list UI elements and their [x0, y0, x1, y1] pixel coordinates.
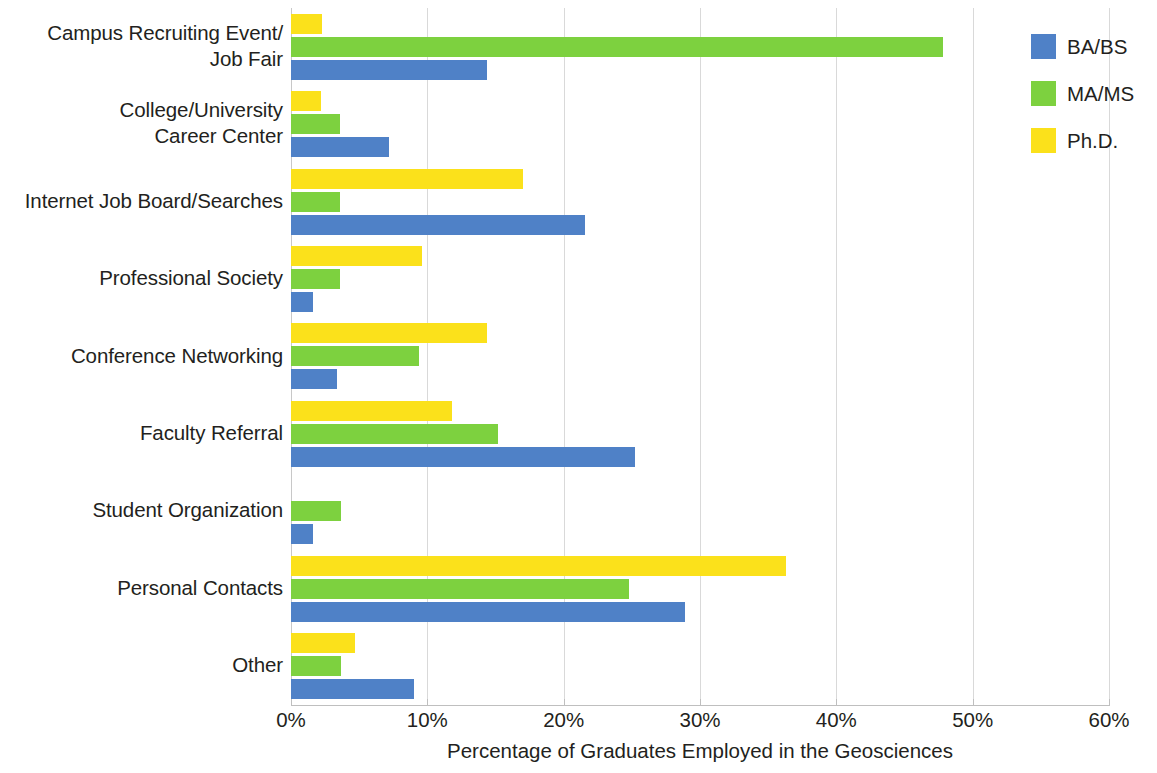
x-tick-label: 10% [407, 706, 448, 734]
bar-slot [291, 345, 1109, 368]
bar-slot [291, 90, 1109, 113]
x-tick-label: 30% [679, 706, 720, 734]
x-tick-label: 50% [952, 706, 993, 734]
bar-slot [291, 136, 1109, 159]
x-axis-ticks: 0%10%20%30%40%50%60% [291, 706, 1109, 736]
category-label: Other [0, 652, 283, 678]
category-label: College/UniversityCareer Center [0, 97, 283, 149]
bar-mams [291, 656, 341, 676]
x-tick-mark [700, 699, 701, 706]
bar-phd [291, 246, 422, 266]
legend-label: Ph.D. [1067, 130, 1118, 152]
bar-slot [291, 445, 1109, 468]
legend: BA/BSMA/MSPh.D. [1031, 23, 1157, 164]
category-label-line: Faculty Referral [0, 420, 283, 446]
legend-swatch [1031, 34, 1056, 59]
category-label-line: Student Organization [0, 497, 283, 523]
category-label: Campus Recruiting Event/Job Fair [0, 20, 283, 72]
bar-slot [291, 322, 1109, 345]
bar-slot [291, 632, 1109, 655]
category-label-line: Campus Recruiting Event/ [0, 20, 283, 46]
bar-slot [291, 577, 1109, 600]
bar-slot [291, 167, 1109, 190]
bar-group [291, 85, 1109, 162]
bar-slot [291, 368, 1109, 391]
x-tick-label: 0% [276, 706, 306, 734]
category-label: Faculty Referral [0, 420, 283, 446]
bar-mams [291, 37, 943, 57]
category-label-line: Conference Networking [0, 343, 283, 369]
category-label-line: Personal Contacts [0, 575, 283, 601]
bar-slot [291, 477, 1109, 500]
category-label: Personal Contacts [0, 575, 283, 601]
bar-phd [291, 556, 786, 576]
bar-group [291, 8, 1109, 85]
bar-group [291, 395, 1109, 472]
legend-label: BA/BS [1067, 36, 1127, 58]
legend-item: BA/BS [1031, 23, 1157, 70]
bar-group [291, 163, 1109, 240]
legend-label: MA/MS [1067, 83, 1134, 105]
x-tick-mark [291, 699, 292, 706]
bar-group [291, 318, 1109, 395]
category-label: Conference Networking [0, 343, 283, 369]
bar-slot [291, 190, 1109, 213]
bar-slot [291, 678, 1109, 701]
bar-slot [291, 213, 1109, 236]
bar-babs [291, 524, 313, 544]
bar-group [291, 240, 1109, 317]
bar-slot [291, 113, 1109, 136]
bar-mams [291, 424, 498, 444]
legend-item: MA/MS [1031, 70, 1157, 117]
bar-slot [291, 500, 1109, 523]
bar-mams [291, 346, 419, 366]
legend-swatch [1031, 128, 1056, 153]
bar-slot [291, 58, 1109, 81]
bar-mams [291, 269, 340, 289]
bar-phd [291, 91, 321, 111]
category-label: Professional Society [0, 265, 283, 291]
bar-babs [291, 137, 389, 157]
bar-chart: Campus Recruiting Event/Job FairCollege/… [0, 0, 1157, 773]
bar-babs [291, 60, 487, 80]
legend-item: Ph.D. [1031, 117, 1157, 164]
bar-babs [291, 447, 635, 467]
legend-swatch [1031, 81, 1056, 106]
bar-slot [291, 268, 1109, 291]
bar-group [291, 628, 1109, 705]
bar-slot [291, 12, 1109, 35]
x-tick-mark [1109, 699, 1110, 706]
category-label-line: Other [0, 652, 283, 678]
bar-babs [291, 679, 414, 699]
bar-babs [291, 369, 337, 389]
category-label: Student Organization [0, 497, 283, 523]
bar-slot [291, 523, 1109, 546]
x-tick-mark [836, 699, 837, 706]
bar-mams [291, 114, 340, 134]
bar-mams [291, 192, 340, 212]
x-axis-title: Percentage of Graduates Employed in the … [291, 739, 1109, 763]
bar-mams [291, 579, 629, 599]
bar-slot [291, 422, 1109, 445]
category-label-line: Internet Job Board/Searches [0, 188, 283, 214]
category-label-line: College/University [0, 97, 283, 123]
bar-phd [291, 169, 523, 189]
bar-group [291, 550, 1109, 627]
bar-babs [291, 292, 313, 312]
bar-slot [291, 399, 1109, 422]
bar-slot [291, 655, 1109, 678]
bar-babs [291, 602, 685, 622]
bar-slot [291, 600, 1109, 623]
bar-slot [291, 554, 1109, 577]
x-tick-label: 20% [543, 706, 584, 734]
x-tick-label: 40% [816, 706, 857, 734]
bar-phd [291, 633, 355, 653]
bar-phd [291, 14, 322, 34]
bar-rows [291, 8, 1109, 705]
bar-babs [291, 215, 585, 235]
category-label-line: Professional Society [0, 265, 283, 291]
bar-group [291, 473, 1109, 550]
x-tick-mark [973, 699, 974, 706]
bar-mams [291, 501, 341, 521]
bar-phd [291, 401, 452, 421]
